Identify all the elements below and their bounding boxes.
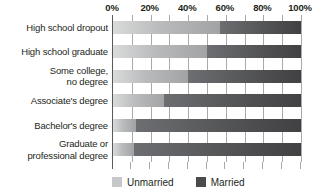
y-category-label: High school dropout <box>0 22 108 34</box>
bar-segment-unmarried <box>113 143 134 156</box>
x-tick-mark <box>206 162 207 169</box>
y-category-label-line: no degree <box>0 76 108 88</box>
y-category-label-line: Bachelor's degree <box>0 120 108 132</box>
x-tick-label: 80% <box>253 2 271 13</box>
y-category-label-line: Associate's degree <box>0 95 108 107</box>
y-category-label: Graduate orprofessional degree <box>0 138 108 161</box>
bar-row <box>113 143 301 156</box>
y-category-label: Bachelor's degree <box>0 120 108 132</box>
x-tick-mark <box>149 162 150 169</box>
y-category-label: Associate's degree <box>0 95 108 107</box>
x-tick-label: 40% <box>178 2 196 13</box>
x-tick-label: 0% <box>105 2 118 13</box>
chart-legend: UnmarriedMarried <box>112 174 315 190</box>
x-axis-tick-labels: 0%20%40%60%80%100% <box>112 2 300 15</box>
x-tick-mark <box>224 162 225 169</box>
x-tick-mark <box>168 162 169 169</box>
bar-segment-married <box>164 94 301 107</box>
legend-swatch-unmarried <box>112 177 122 187</box>
bar-row <box>113 70 301 83</box>
bar-segment-married <box>188 70 301 83</box>
legend-item[interactable]: Married <box>196 177 245 188</box>
x-tick-label: 20% <box>140 2 158 13</box>
bar-segment-unmarried <box>113 45 207 58</box>
bar-row <box>113 119 301 132</box>
bar-segment-married <box>134 143 301 156</box>
bar-segment-married <box>207 45 301 58</box>
y-axis-category-labels: High school dropoutHigh school graduateS… <box>0 15 108 162</box>
bar-row <box>113 21 301 34</box>
bar-row <box>113 45 301 58</box>
x-tick-mark <box>300 162 301 169</box>
y-category-label-line: professional degree <box>0 150 108 162</box>
y-category-label-line: High school graduate <box>0 46 108 58</box>
x-tick-label: 100% <box>288 2 312 13</box>
x-axis-tick-marks <box>112 162 300 170</box>
x-tick-mark <box>112 162 113 169</box>
bar-segment-unmarried <box>113 94 164 107</box>
bar-segment-married <box>136 119 301 132</box>
bar-rows <box>113 15 301 162</box>
y-category-label-line: Graduate or <box>0 138 108 150</box>
stacked-bar-chart: 0%20%40%60%80%100% High school dropoutHi… <box>0 0 315 192</box>
legend-item[interactable]: Unmarried <box>112 177 174 188</box>
bar-segment-married <box>220 21 301 34</box>
bar-segment-unmarried <box>113 70 188 83</box>
gridline <box>301 15 302 162</box>
y-category-label-line: High school dropout <box>0 22 108 34</box>
x-tick-mark <box>262 162 263 169</box>
x-tick-mark <box>130 162 131 169</box>
legend-swatch-married <box>196 177 206 187</box>
x-tick-mark <box>243 162 244 169</box>
plot-area <box>112 15 301 162</box>
x-tick-mark <box>187 162 188 169</box>
y-category-label: Some college,no degree <box>0 65 108 88</box>
bar-segment-unmarried <box>113 119 136 132</box>
bar-row <box>113 94 301 107</box>
y-category-label: High school graduate <box>0 46 108 58</box>
legend-label: Unmarried <box>127 177 174 188</box>
legend-label: Married <box>211 177 245 188</box>
x-tick-mark <box>281 162 282 169</box>
y-category-label-line: Some college, <box>0 65 108 77</box>
x-tick-label: 60% <box>216 2 234 13</box>
bar-segment-unmarried <box>113 21 220 34</box>
